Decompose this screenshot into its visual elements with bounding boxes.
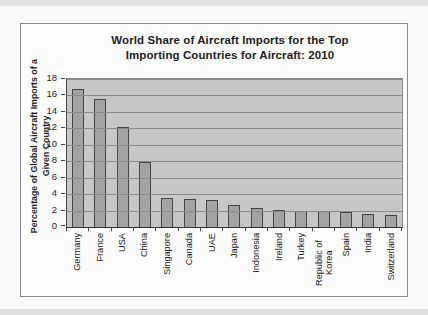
x-label-singapore: Singapore [162,233,172,275]
x-tick-mark-5 [178,227,179,231]
x-label-slot-china: China [133,233,155,295]
y-tick-label-18: 18 [27,73,57,83]
x-tick-mark-0 [66,227,67,231]
bar-slot-republic-of-korea [313,79,335,227]
y-tick-label-4: 4 [27,188,57,198]
x-label-japan: Japan [229,233,239,258]
x-label-ireland: Ireland [274,233,284,261]
x-label-slot-spain: Spain [335,233,357,295]
x-label-usa: USA [117,233,127,252]
x-tick-mark-9 [267,227,268,231]
x-tick-mark-15 [401,227,402,231]
bar-slot-spain [335,79,357,227]
y-tick-mark-12 [61,127,65,128]
x-label-france: France [95,233,105,262]
x-label-india: India [363,233,373,253]
y-tick-mark-6 [61,177,65,178]
gridline-8 [67,161,402,162]
y-tick-label-12: 12 [27,122,57,132]
x-tick-mark-10 [289,227,290,231]
bar-turkey [295,211,307,227]
x-tick-mark-14 [379,227,380,231]
bar-france [94,99,106,227]
x-label-slot-singapore: Singapore [156,233,178,295]
y-tick-mark-14 [61,111,65,112]
y-tick-mark-8 [61,160,65,161]
x-tick-mark-4 [155,227,156,231]
x-label-canada: Canada [184,233,194,265]
x-tick-mark-2 [111,227,112,231]
x-label-germany: Germany [72,233,82,271]
bar-slot-indonesia [246,79,268,227]
x-tick-mark-13 [356,227,357,231]
x-tick-mark-8 [245,227,246,231]
bar-slot-singapore [156,79,178,227]
x-tick-mark-1 [88,227,89,231]
gridline-14 [67,112,402,113]
bar-slot-turkey [290,79,312,227]
y-tick-label-0: 0 [27,221,57,231]
chart-frame: World Share of Aircraft Imports for the … [20,23,408,297]
y-tick-label-16: 16 [27,89,57,99]
bar-singapore [161,198,173,227]
x-tick-mark-7 [222,227,223,231]
y-tick-label-8: 8 [27,155,57,165]
x-label-indonesia: Indonesia [251,233,261,273]
bar-uae [206,200,218,227]
y-tick-label-10: 10 [27,139,57,149]
x-label-slot-uae: UAE [200,233,222,295]
x-axis-tick-marks [66,226,402,231]
x-label-spain: Spain [341,233,351,257]
bar-slot-usa [112,79,134,227]
x-label-slot-canada: Canada [178,233,200,295]
y-tick-label-14: 14 [27,106,57,116]
y-tick-label-6: 6 [27,172,57,182]
scan-edge-top [0,0,428,6]
x-label-slot-germany: Germany [66,233,88,295]
y-tick-mark-0 [61,225,65,226]
x-label-slot-usa: USA [111,233,133,295]
gridline-18 [67,79,402,80]
chart-title: World Share of Aircraft Imports for the … [65,33,395,62]
bar-canada [184,199,196,227]
x-label-slot-ireland: Ireland [268,233,290,295]
x-label-slot-switzerland: Switzerland [380,233,402,295]
x-label-slot-republic-of-korea: Republic of Korea [312,233,334,295]
gridline-2 [67,211,402,212]
x-label-slot-japan: Japan [223,233,245,295]
bar-row [67,79,402,227]
bar-slot-canada [179,79,201,227]
x-tick-mark-6 [200,227,201,231]
y-tick-mark-2 [61,210,65,211]
bar-republic-of-korea [318,211,330,227]
y-tick-label-2: 2 [27,205,57,215]
x-axis-labels: GermanyFranceUSAChinaSingaporeCanadaUAEJ… [66,233,402,295]
gridline-12 [67,128,402,129]
x-label-slot-india: India [357,233,379,295]
bar-spain [340,212,352,227]
x-tick-mark-12 [334,227,335,231]
gridline-4 [67,194,402,195]
bar-slot-france [89,79,111,227]
plot-area [66,78,403,228]
x-label-switzerland: Switzerland [386,233,396,281]
x-label-republic-of-korea: Republic of Korea [314,233,334,293]
x-tick-mark-3 [133,227,134,231]
y-axis-ticks: 181614121086420 [21,78,66,226]
x-tick-mark-11 [312,227,313,231]
bar-slot-germany [67,79,89,227]
x-label-slot-turkey: Turkey [290,233,312,295]
bar-slot-india [357,79,379,227]
y-tick-mark-16 [61,94,65,95]
bar-slot-ireland [268,79,290,227]
y-tick-mark-18 [61,78,65,79]
bar-slot-switzerland [380,79,402,227]
x-label-turkey: Turkey [296,233,306,261]
x-label-uae: UAE [207,233,217,252]
bar-ireland [273,210,285,227]
x-label-china: China [139,233,149,257]
gridline-6 [67,178,402,179]
scan-edge-bottom [0,309,428,315]
bar-japan [228,205,240,227]
gridline-10 [67,145,402,146]
